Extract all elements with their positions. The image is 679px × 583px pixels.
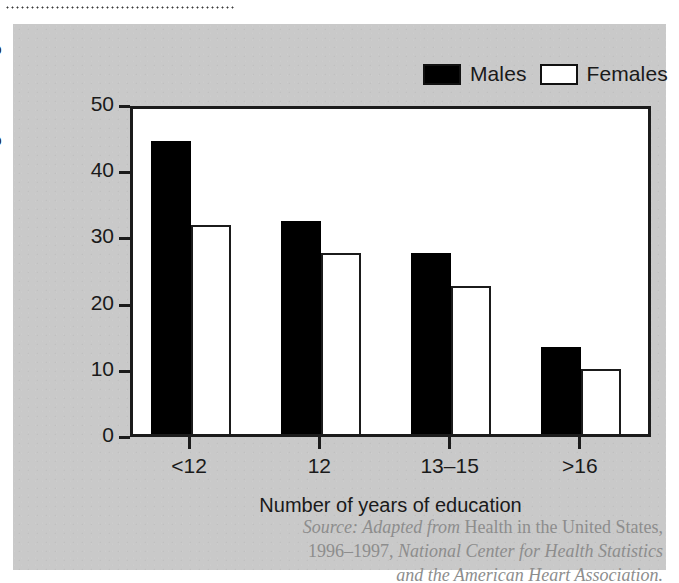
source-caption: Source: Adapted from Health in the Unite… bbox=[193, 516, 663, 583]
plot-area bbox=[130, 106, 651, 437]
source-prefix: Source: Adapted from bbox=[303, 517, 465, 537]
y-tick-label: 10 bbox=[91, 357, 114, 381]
y-tick-0: 0 bbox=[119, 436, 130, 439]
figure-panel: Males Females Percentage smoking 0102030… bbox=[13, 24, 666, 570]
bars-layer bbox=[133, 109, 648, 434]
source-publisher: National Center for Health Statistics bbox=[398, 541, 663, 561]
bar-males-1315 bbox=[411, 253, 451, 434]
x-tick-mark-12 bbox=[318, 437, 321, 449]
bar-females-12 bbox=[321, 253, 361, 434]
y-tick-label: 0 bbox=[102, 423, 114, 447]
x-tick-mark->16 bbox=[578, 437, 581, 449]
source-year: 1996–1997, bbox=[308, 541, 398, 561]
x-tick-label-12: 12 bbox=[308, 454, 331, 478]
bar-females-12 bbox=[191, 225, 231, 434]
x-tick-label-13–15: 13–15 bbox=[420, 454, 478, 478]
filled-square-swatch-icon bbox=[423, 64, 461, 85]
y-tick-40: 40 bbox=[119, 171, 130, 174]
y-tick-mark bbox=[119, 105, 130, 108]
bar-females-1315 bbox=[451, 286, 491, 434]
x-tick-mark-13–15 bbox=[448, 437, 451, 449]
y-tick-mark bbox=[119, 171, 130, 174]
chart-legend: Males Females bbox=[423, 62, 668, 86]
x-tick-label->16: >16 bbox=[562, 454, 598, 478]
y-tick-mark bbox=[119, 370, 130, 373]
bar-males-12 bbox=[151, 141, 191, 434]
y-tick-label: 30 bbox=[91, 224, 114, 248]
x-axis-title: Number of years of education bbox=[130, 494, 651, 517]
legend-label-females: Females bbox=[587, 62, 668, 86]
bar-females-16 bbox=[581, 369, 621, 434]
x-tick-mark-<12 bbox=[188, 437, 191, 449]
y-tick-label: 40 bbox=[91, 158, 114, 182]
y-tick-10: 10 bbox=[119, 370, 130, 373]
y-tick-20: 20 bbox=[119, 304, 130, 307]
bar-males-16 bbox=[541, 347, 581, 434]
legend-entry-males: Males bbox=[423, 62, 527, 86]
x-tick-label-<12: <12 bbox=[171, 454, 207, 478]
y-tick-mark bbox=[119, 436, 130, 439]
source-work: Health in the United States, bbox=[465, 517, 663, 537]
y-tick-label: 50 bbox=[91, 92, 114, 116]
bar-males-12 bbox=[281, 221, 321, 434]
y-tick-mark bbox=[119, 304, 130, 307]
source-publisher-2: and the American Heart Association. bbox=[396, 565, 663, 583]
y-tick-50: 50 bbox=[119, 105, 130, 108]
legend-label-males: Males bbox=[470, 62, 527, 86]
y-axis-title: Percentage smoking bbox=[0, 0, 2, 306]
outlined-square-swatch-icon bbox=[540, 64, 578, 85]
top-dotted-rule bbox=[5, 6, 236, 9]
y-tick-mark bbox=[119, 237, 130, 240]
y-tick-30: 30 bbox=[119, 237, 130, 240]
y-tick-label: 20 bbox=[91, 291, 114, 315]
legend-entry-females: Females bbox=[540, 62, 668, 86]
